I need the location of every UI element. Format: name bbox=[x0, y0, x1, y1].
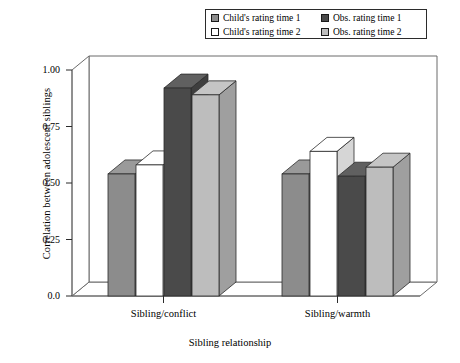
y-axis-tick-label: 1.00 bbox=[24, 65, 60, 75]
y-axis-tick-label: 0.75 bbox=[24, 122, 60, 132]
y-axis-tick-label: 0.0 bbox=[24, 291, 60, 301]
x-axis-category-label: Sibling/conflict bbox=[94, 308, 234, 319]
x-axis-title: Sibling relationship bbox=[0, 337, 460, 348]
y-axis-tick-label: 0.50 bbox=[24, 178, 60, 188]
x-axis-category-label: Sibling/warmth bbox=[268, 308, 408, 319]
bar-chart: Child's rating time 1 Obs. rating time 1… bbox=[0, 0, 460, 363]
y-axis-tick-label: 0.25 bbox=[24, 235, 60, 245]
